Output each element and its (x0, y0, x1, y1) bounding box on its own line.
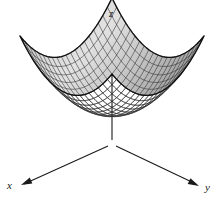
x-axis-label: x (7, 180, 12, 191)
paraboloid-figure (0, 0, 224, 202)
z-axis-label: z (109, 8, 113, 19)
y-axis-label: y (205, 182, 210, 193)
